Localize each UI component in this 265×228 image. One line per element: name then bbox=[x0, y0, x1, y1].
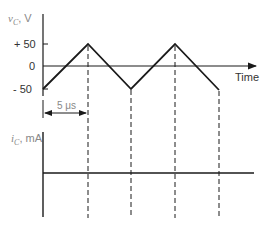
ic-axis-label: iC, mA bbox=[11, 132, 43, 147]
time-markers bbox=[88, 46, 219, 218]
current-plot: iC, mA bbox=[11, 132, 254, 217]
tick-label-minus-50: - 50 bbox=[13, 83, 32, 95]
tick-label-zero: 0 bbox=[29, 60, 35, 72]
time-axis-label: Time bbox=[235, 71, 259, 83]
voltage-plot: vC, V + 50 0 - 50 Time 5 μs bbox=[8, 12, 259, 118]
vc-axis-label: vC, V bbox=[8, 12, 32, 27]
tick-label-plus-50: + 50 bbox=[14, 38, 36, 50]
period-label: 5 μs bbox=[57, 100, 76, 111]
waveform-diagram: vC, V + 50 0 - 50 Time 5 μs iC, mA bbox=[0, 0, 265, 228]
triangle-waveform bbox=[43, 44, 219, 90]
